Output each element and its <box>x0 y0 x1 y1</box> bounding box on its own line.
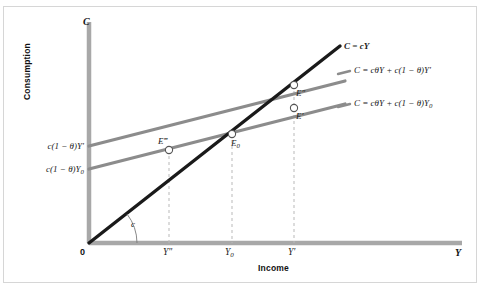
slope-angle-label: c <box>131 219 135 229</box>
point-marker-e-zero <box>228 130 235 137</box>
x-tick-y-zero: Y0 <box>225 247 234 259</box>
consumption-ray <box>89 46 340 243</box>
x-tick-y-double-prime: Y″ <box>163 247 172 257</box>
curve-label-upper: C = cθY + c(1 − θ)Y′ <box>354 65 431 75</box>
consumption-income-chart: C Y Consumption Income 0 Y″ Y0 Y′ c(1 − … <box>0 0 482 291</box>
leader-line-upper <box>338 71 350 74</box>
point-marker-e-triple-prime <box>165 146 172 153</box>
x-axis-symbol: Y <box>455 247 461 258</box>
curve-label-ray: C = cY <box>344 41 369 51</box>
point-label-e-zero: E0 <box>231 138 240 149</box>
point-label-e-prime: E′ <box>296 111 303 121</box>
origin-label: 0 <box>80 247 85 257</box>
point-label-e-double-prime: E″ <box>296 88 305 98</box>
y-intercept-lower: c(1 − θ)Y0 <box>8 164 84 175</box>
curve-label-lower: C = cθY + c(1 − θ)Y0 <box>354 98 432 109</box>
x-axis-title: Income <box>258 263 289 273</box>
y-intercept-upper: c(1 − θ)Y′ <box>8 141 84 151</box>
point-label-e-triple-prime: E‴ <box>158 136 167 146</box>
x-tick-y-prime: Y′ <box>288 247 295 257</box>
y-axis-symbol: C <box>83 16 90 27</box>
y-axis-title: Consumption <box>22 30 32 100</box>
